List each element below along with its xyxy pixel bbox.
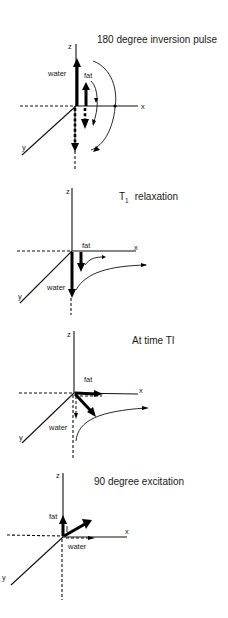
arc-axis-crossing <box>113 104 116 107</box>
y-axis-label: y <box>22 143 26 152</box>
panel-title: 180 degree inversion pulse <box>97 34 218 45</box>
panel-title: T1relaxation <box>119 191 178 204</box>
water-label: water <box>48 423 68 432</box>
water-recovery-curve <box>76 408 146 441</box>
x-axis-label: x <box>134 243 138 252</box>
fat-label: fat <box>84 71 93 80</box>
z-axis-label: z <box>56 471 60 480</box>
fat-label: fat <box>49 512 58 521</box>
fat-label: fat <box>82 241 91 250</box>
arrowhead-icon <box>71 143 79 152</box>
water-label: water <box>46 283 66 292</box>
y-axis-label: y <box>19 433 23 442</box>
panel-title: At time TI <box>132 335 175 346</box>
x-axis-label: x <box>139 386 143 395</box>
water-recovery-curve <box>76 265 146 290</box>
fat-vector-arrow <box>75 393 96 394</box>
y-axis <box>20 251 72 303</box>
panel-inversion-pulse: 180 degree inversion pulse z x y water f… <box>20 34 218 170</box>
x-axis-label: x <box>125 527 129 536</box>
fat-rotation-arc <box>91 81 97 124</box>
water-label: water <box>47 69 67 78</box>
y-axis-label: y <box>2 573 6 582</box>
arrowhead-icon <box>82 82 90 90</box>
arrowhead-icon <box>141 263 147 267</box>
arrowhead-icon <box>77 263 85 272</box>
panel-t1-relaxation: T1relaxation z x y fat water <box>17 187 178 315</box>
water-label: water <box>67 542 87 551</box>
panel-title: 90 degree excitation <box>94 476 184 487</box>
y-axis <box>22 106 76 155</box>
fat-recovery-curve <box>85 257 104 265</box>
panel-at-time-ti: At time TI z x y fat water <box>19 330 175 460</box>
arrowhead-icon <box>73 58 81 67</box>
fat-label: fat <box>84 375 93 384</box>
title-subscript: 1 <box>125 197 129 204</box>
z-axis-label: z <box>68 42 72 51</box>
y-axis <box>11 537 63 585</box>
arrowhead-icon <box>142 406 149 410</box>
inversion-recovery-diagram: 180 degree inversion pulse z x y water f… <box>0 0 228 618</box>
negative-x-axis <box>7 535 63 536</box>
arrowhead-icon <box>81 119 89 129</box>
title-rest: relaxation <box>135 191 178 202</box>
arrowhead-icon <box>102 255 106 259</box>
arrowhead-icon <box>92 119 96 126</box>
x-axis-label: x <box>141 102 145 111</box>
y-axis-label: y <box>18 292 22 301</box>
z-axis-label: z <box>66 187 70 196</box>
arrowhead-icon <box>74 413 78 419</box>
z-axis-label: z <box>67 330 71 339</box>
arrowhead-icon <box>59 515 67 524</box>
y-axis <box>22 393 74 443</box>
panel-90-degree-excitation: 90 degree excitation z x y fat water <box>2 471 184 600</box>
arrowhead-icon <box>68 289 76 298</box>
